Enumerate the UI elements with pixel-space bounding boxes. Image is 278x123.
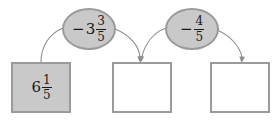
operation-oval-2-content: − 4 5 <box>180 15 204 42</box>
value-box-3[interactable] <box>210 62 270 113</box>
arrow-oval2-to-box3 <box>217 30 242 57</box>
value-box-1-denominator: 5 <box>42 89 52 101</box>
fraction-flow-diagram: 6 1 5 − 3 3 5 <box>0 0 278 123</box>
operation-oval-1-fraction: 3 5 <box>96 15 106 42</box>
value-box-1-whole: 6 <box>31 80 41 95</box>
operation-oval-1-denominator: 5 <box>96 31 106 43</box>
arrow-oval1-to-box2 <box>115 29 140 57</box>
operation-oval-1-whole: 3 <box>86 22 96 37</box>
arrow-box2-to-oval2 <box>141 28 166 60</box>
value-box-1-content: 6 1 5 <box>30 74 51 101</box>
operation-oval-2-numerator: 4 <box>194 15 204 27</box>
operation-oval-1-sign: − <box>72 22 85 37</box>
operation-oval-2-sign: − <box>180 22 193 37</box>
arrow-box1-to-oval1 <box>41 28 63 62</box>
operation-oval-1-content: − 3 3 5 <box>72 15 106 42</box>
value-box-1-fraction: 1 5 <box>42 74 52 101</box>
operation-oval-1-numerator: 3 <box>96 15 106 27</box>
operation-oval-2-denominator: 5 <box>194 31 204 43</box>
operation-oval-2-fraction: 4 5 <box>194 15 204 42</box>
value-box-2[interactable] <box>112 62 172 113</box>
value-box-1-numerator: 1 <box>42 74 52 86</box>
operation-oval-1[interactable]: − 3 3 5 <box>62 8 116 50</box>
value-box-1[interactable]: 6 1 5 <box>11 62 71 113</box>
operation-oval-2[interactable]: − 4 5 <box>165 8 219 50</box>
